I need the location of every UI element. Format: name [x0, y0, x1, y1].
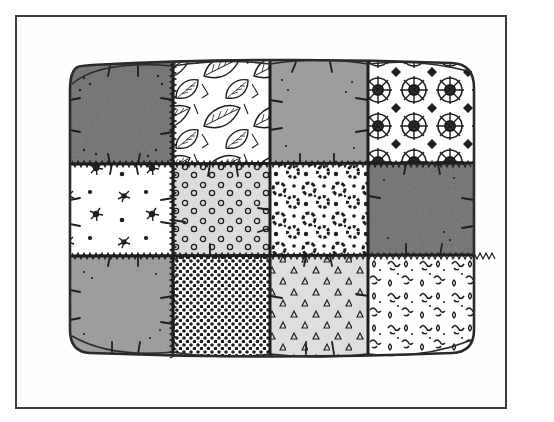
square-r3c3-triangles — [270, 256, 368, 360]
quilt-squares — [68, 60, 478, 360]
square-r2c4-solid-dark — [368, 164, 478, 256]
square-r2c1-splatter — [68, 164, 173, 256]
square-r1c4-medallion-lace — [368, 60, 478, 164]
puff-quilt-illustration — [0, 0, 554, 422]
square-r2c3-bubbly-blobs — [270, 164, 368, 256]
square-r2c2-ring-dots — [173, 164, 270, 256]
square-r3c2-dense-dots — [173, 256, 270, 360]
square-r1c2-leaf-print — [173, 60, 270, 164]
